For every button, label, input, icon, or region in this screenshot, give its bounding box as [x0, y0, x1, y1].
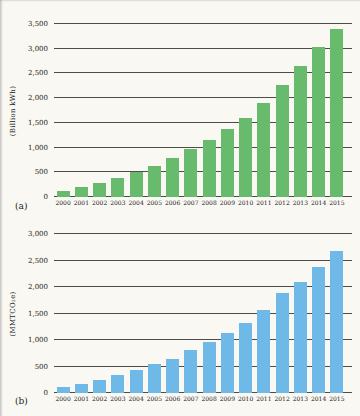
bar-b-2008: [203, 342, 216, 393]
bar-b-2007: [184, 350, 197, 393]
bar-a-2015: [330, 29, 343, 197]
bar-cell-b-2013: [291, 234, 309, 393]
xtick-label-a-2012: 2012: [273, 199, 291, 206]
bar-cell-b-2007: [182, 234, 200, 393]
bar-a-2001: [75, 187, 88, 197]
bar-a-2013: [294, 66, 307, 197]
bar-cell-b-2010: [237, 234, 255, 393]
bar-cell-b-2000: [54, 234, 72, 393]
xtick-label-a-2001: 2001: [72, 199, 90, 206]
bar-a-2012: [276, 85, 289, 197]
xtick-label-b-2004: 2004: [127, 395, 145, 402]
bar-cell-b-2005: [145, 234, 163, 393]
bar-b-2001: [75, 384, 88, 393]
page-edge-shadow-left: [0, 0, 3, 416]
ytick-label-a-0: 0: [44, 193, 48, 201]
bar-cell-a-2000: [54, 24, 72, 197]
bar-cell-a-2004: [127, 24, 145, 197]
bar-cell-b-2001: [72, 234, 90, 393]
xtick-label-b-2013: 2013: [291, 395, 309, 402]
bar-cell-a-2015: [328, 24, 346, 197]
panel-label-b: (b): [15, 396, 28, 406]
ytick-label-a-500: 500: [35, 168, 48, 176]
bar-b-2013: [294, 282, 307, 393]
ytick-label-a-1500: 1,500: [28, 119, 48, 127]
bar-a-2002: [93, 183, 106, 197]
bar-cell-b-2015: [328, 234, 346, 393]
xtick-label-b-2001: 2001: [72, 395, 90, 402]
bar-b-2014: [312, 267, 325, 393]
bar-cell-b-2004: [127, 234, 145, 393]
bar-a-2003: [111, 178, 124, 197]
xtick-label-b-2011: 2011: [255, 395, 273, 402]
bar-cell-b-2009: [218, 234, 236, 393]
chart-a-billion-kwh: 2000200120022003200420052006200720082009…: [54, 24, 352, 197]
xtick-label-b-2009: 2009: [218, 395, 236, 402]
xtick-label-a-2003: 2003: [109, 199, 127, 206]
page-edge-shadow-top: [0, 0, 360, 2]
bar-cell-b-2014: [310, 234, 328, 393]
bar-a-2009: [221, 129, 234, 197]
xtick-label-a-2007: 2007: [182, 199, 200, 206]
bar-cell-a-2003: [109, 24, 127, 197]
bar-cell-a-2014: [310, 24, 328, 197]
xtick-label-a-2010: 2010: [237, 199, 255, 206]
xtick-label-b-2000: 2000: [54, 395, 72, 402]
xtick-label-a-2015: 2015: [328, 199, 346, 206]
bar-cell-b-2002: [91, 234, 109, 393]
chart-a-y-axis-title: (Billion kWh): [9, 85, 17, 135]
xtick-label-b-2008: 2008: [200, 395, 218, 402]
two-panel-bar-chart-figure: 2000200120022003200420052006200720082009…: [0, 0, 360, 416]
bar-cell-a-2001: [72, 24, 90, 197]
xtick-label-b-2006: 2006: [164, 395, 182, 402]
xtick-label-b-2015: 2015: [328, 395, 346, 402]
bar-cell-b-2011: [255, 234, 273, 393]
xtick-label-b-2005: 2005: [145, 395, 163, 402]
xtick-label-a-2009: 2009: [218, 199, 236, 206]
bar-b-2000: [57, 387, 70, 393]
ytick-label-a-1000: 1,000: [28, 144, 48, 152]
bar-cell-a-2002: [91, 24, 109, 197]
bar-cell-a-2013: [291, 24, 309, 197]
bar-b-2005: [148, 364, 161, 393]
xtick-label-a-2011: 2011: [255, 199, 273, 206]
bar-cell-a-2006: [164, 24, 182, 197]
bar-cell-b-2012: [273, 234, 291, 393]
xtick-label-b-2012: 2012: [273, 395, 291, 402]
ytick-label-b-3000: 3,000: [28, 230, 48, 238]
bar-cell-b-2006: [164, 234, 182, 393]
ytick-label-a-2500: 2,500: [28, 69, 48, 77]
ytick-label-a-3500: 3,500: [28, 20, 48, 28]
ytick-label-b-2000: 2,000: [28, 283, 48, 291]
xtick-label-b-2002: 2002: [91, 395, 109, 402]
bar-a-2010: [239, 118, 252, 197]
ytick-label-a-2000: 2,000: [28, 94, 48, 102]
ytick-label-b-500: 500: [35, 363, 48, 371]
xtick-label-a-2014: 2014: [310, 199, 328, 206]
bar-cell-a-2011: [255, 24, 273, 197]
ytick-label-b-2500: 2,500: [28, 257, 48, 265]
chart-b-mmtco2e: 2000200120022003200420052006200720082009…: [54, 234, 352, 393]
ytick-label-b-1000: 1,000: [28, 336, 48, 344]
chart-b-y-axis-title: (MMTCO₂e): [9, 291, 17, 336]
xtick-label-a-2004: 2004: [127, 199, 145, 206]
chart-a-x-axis-labels: 2000200120022003200420052006200720082009…: [54, 197, 346, 206]
bar-cell-a-2007: [182, 24, 200, 197]
bar-cell-a-2010: [237, 24, 255, 197]
bar-b-2002: [93, 380, 106, 393]
chart-b-bars: [54, 234, 346, 393]
xtick-label-a-2000: 2000: [54, 199, 72, 206]
xtick-label-b-2003: 2003: [109, 395, 127, 402]
bar-b-2015: [330, 251, 343, 393]
bar-cell-b-2008: [200, 234, 218, 393]
ytick-label-a-3000: 3,000: [28, 45, 48, 53]
xtick-label-a-2002: 2002: [91, 199, 109, 206]
panel-label-a: (a): [15, 201, 27, 211]
bar-b-2012: [276, 293, 289, 393]
bar-cell-a-2008: [200, 24, 218, 197]
bar-a-2004: [130, 172, 143, 197]
bar-b-2003: [111, 375, 124, 393]
bar-a-2005: [148, 166, 161, 197]
bar-b-2006: [166, 359, 179, 393]
bar-cell-a-2005: [145, 24, 163, 197]
